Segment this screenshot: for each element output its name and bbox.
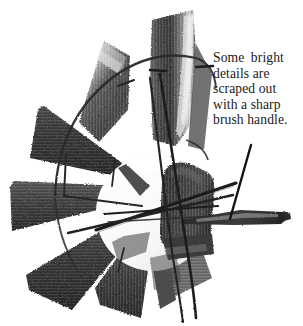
windmill-artwork (0, 0, 303, 326)
caption-line-1: Some bright (213, 50, 303, 66)
annotation-caption: Some bright details are scraped out with… (213, 50, 303, 128)
caption-line-2: details are (213, 66, 303, 82)
caption-line-5: brush handle. (213, 112, 303, 128)
caption-line-3: scraped out (213, 81, 303, 97)
caption-line-4: with a sharp (213, 97, 303, 113)
illustration-page: Some bright details are scraped out with… (0, 0, 303, 326)
